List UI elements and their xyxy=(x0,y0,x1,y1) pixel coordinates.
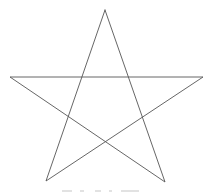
cropped-caption-text xyxy=(62,188,148,194)
pentagram-svg xyxy=(0,0,211,194)
pentagram-star-shape xyxy=(10,10,203,182)
pentagram-diagram xyxy=(0,0,211,194)
